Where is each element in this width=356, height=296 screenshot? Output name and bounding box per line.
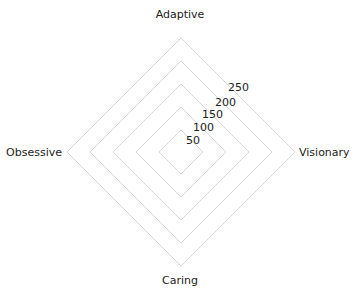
axis-label-caring: Caring bbox=[162, 274, 198, 287]
axis-label-obsessive: Obsessive bbox=[6, 146, 62, 159]
radar-grid bbox=[67, 38, 295, 266]
radial-tick-labels: 250 200 150 100 50 bbox=[186, 81, 249, 147]
tick-label-250: 250 bbox=[228, 81, 249, 94]
axis-label-visionary: Visionary bbox=[299, 146, 350, 159]
tick-label-100: 100 bbox=[193, 121, 214, 134]
grid-ring-250 bbox=[67, 38, 295, 266]
axis-labels: Adaptive Visionary Caring Obsessive bbox=[6, 8, 350, 287]
tick-label-50: 50 bbox=[186, 134, 200, 147]
tick-label-150: 150 bbox=[202, 108, 223, 121]
radar-chart: 250 200 150 100 50 Adaptive Visionary Ca… bbox=[0, 0, 356, 296]
axis-label-adaptive: Adaptive bbox=[156, 8, 205, 21]
